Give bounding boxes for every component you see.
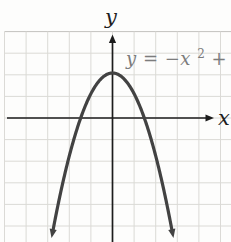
equation-base: y = −x bbox=[125, 48, 191, 69]
graph-canvas: y x y = −x 2 + 2 bbox=[0, 0, 231, 242]
parabola-end-arrowhead-icon bbox=[50, 229, 57, 239]
parabola-end-arrowhead-icon bbox=[168, 229, 175, 239]
graph-figure: y x y = −x 2 + 2 bbox=[0, 0, 231, 242]
equation-exponent: 2 bbox=[197, 47, 205, 61]
y-axis-arrowhead-icon bbox=[109, 35, 116, 44]
x-axis-label: x bbox=[218, 106, 230, 130]
x-axis-arrowhead-icon bbox=[206, 114, 215, 121]
equation-label: y = −x 2 + 2 bbox=[125, 41, 231, 69]
y-axis-label: y bbox=[104, 5, 118, 29]
equation-rest: + 2 bbox=[212, 48, 231, 69]
